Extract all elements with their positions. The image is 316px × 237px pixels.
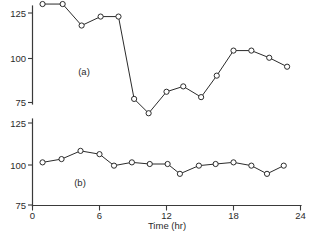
panel-a-point xyxy=(79,23,84,28)
panel-a-point xyxy=(132,96,137,101)
panel-a-axes: 125 100 75 xyxy=(10,6,32,108)
panel-a-point xyxy=(181,84,186,89)
figure-container: 125 100 75 (a) 125 100 75 (b) 06121824 T… xyxy=(0,0,316,237)
panel-b-ylabel-100: 100 xyxy=(10,160,26,171)
panel-b-ylabel-75: 75 xyxy=(15,200,26,211)
x-tick-label-18: 18 xyxy=(228,210,239,221)
panel-a-point xyxy=(60,1,65,6)
panel-b-point xyxy=(231,160,236,165)
panel-a-point xyxy=(267,55,272,60)
panel-b-point xyxy=(196,163,201,168)
x-tick-label-24: 24 xyxy=(295,210,306,221)
panel-a-point xyxy=(164,89,169,94)
panel-a-ylabel-125: 125 xyxy=(10,8,26,19)
panel-a-series xyxy=(40,1,290,115)
x-tick-label-6: 6 xyxy=(97,210,102,221)
panel-a-point xyxy=(98,14,103,19)
panel-a-line xyxy=(43,4,288,113)
panel-b-point xyxy=(249,163,254,168)
x-axis-title: Time (hr) xyxy=(148,220,186,231)
panel-b-line xyxy=(43,151,284,174)
panel-a-point xyxy=(249,48,254,53)
panel-b-point xyxy=(129,160,134,165)
panel-b-point xyxy=(213,161,218,166)
panel-a-point xyxy=(199,95,204,100)
panel-b-point xyxy=(264,171,269,176)
panel-b-point xyxy=(97,152,102,157)
plot-svg: 125 100 75 (a) 125 100 75 (b) 06121824 T… xyxy=(0,0,316,237)
panel-a-ylabel-75: 75 xyxy=(15,97,26,108)
panel-b-point xyxy=(111,163,116,168)
panel-a-label: (a) xyxy=(78,66,90,77)
panel-b-point xyxy=(78,148,83,153)
panel-a-point xyxy=(116,14,121,19)
panel-a-point xyxy=(214,73,219,78)
panel-a-point xyxy=(285,64,290,69)
x-tick-label-0: 0 xyxy=(30,210,35,221)
panel-b-point xyxy=(165,161,170,166)
panel-a-ylabel-100: 100 xyxy=(10,53,26,64)
panel-b-series xyxy=(40,148,286,176)
panel-b-point xyxy=(147,161,152,166)
x-axis: 06121824 Time (hr) xyxy=(30,206,306,232)
panel-b-axes: 125 100 75 xyxy=(10,118,32,211)
panel-b-point xyxy=(59,156,64,161)
panel-a-point xyxy=(40,1,45,6)
panel-b-point xyxy=(177,171,182,176)
panel-b-label: (b) xyxy=(74,177,86,188)
panel-b-point xyxy=(281,163,286,168)
panel-b-ylabel-125: 125 xyxy=(10,118,26,129)
panel-b-point xyxy=(40,160,45,165)
panel-a-point xyxy=(231,48,236,53)
panel-a-point xyxy=(146,111,151,116)
